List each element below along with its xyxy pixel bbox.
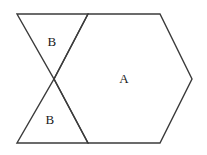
region-label-b-bottom: B: [46, 113, 55, 126]
region-label-b-top: B: [48, 35, 57, 48]
region-label-a: A: [119, 72, 129, 85]
figure-canvas: [0, 0, 207, 155]
geometry-figure: B A B: [0, 0, 207, 155]
